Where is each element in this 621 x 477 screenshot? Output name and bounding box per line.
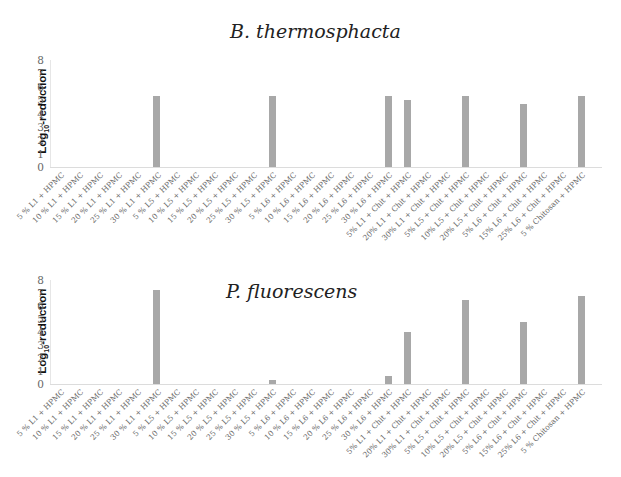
- y-tick-label: 7: [30, 288, 44, 298]
- y-tick-label: 5: [30, 314, 44, 324]
- bar: [578, 296, 585, 384]
- y-tick-label: 3: [30, 340, 44, 350]
- chart-title: P. fluorescens: [226, 280, 357, 302]
- y-tick-label: 2: [30, 353, 44, 363]
- bar: [462, 300, 469, 385]
- y-tick-label: 1: [30, 366, 44, 376]
- bar: [404, 332, 411, 384]
- y-axis-line: [50, 280, 51, 384]
- y-tick-label: 8: [30, 275, 44, 285]
- y-tick-label: 0: [30, 379, 44, 389]
- bar: [385, 376, 392, 384]
- y-tick-label: 6: [30, 301, 44, 311]
- y-tick-label: 4: [30, 327, 44, 337]
- x-axis-line: [50, 384, 602, 385]
- bar: [520, 322, 527, 384]
- chart-p-fluorescens: P. fluorescens Log10-reduction 012345678…: [0, 0, 621, 477]
- bar: [269, 380, 276, 384]
- bar: [153, 290, 160, 384]
